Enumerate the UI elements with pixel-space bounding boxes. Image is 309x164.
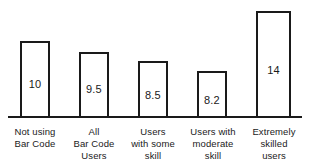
bar-not-using-bar-code[interactable]: 10 <box>20 41 50 118</box>
bar-value-label: 14 <box>258 64 289 76</box>
category-label-not-using-bar-code: Not using Bar Code <box>5 126 65 150</box>
category-label-line: skill <box>182 150 244 162</box>
category-label-line: Not using <box>5 126 65 138</box>
category-label-line: Users with <box>182 126 244 138</box>
category-label-line: Extremely <box>243 126 305 138</box>
category-label-line: with some <box>123 138 183 150</box>
category-label-line: Users <box>123 126 183 138</box>
bar-all-bar-code-users[interactable]: 9.5 <box>79 52 109 118</box>
category-label-extremely-skilled-users: Extremely skilled users <box>243 126 305 162</box>
category-label-line: All <box>64 126 124 138</box>
bar-users-with-moderate-skill[interactable]: 8.2 <box>197 71 227 118</box>
category-label-users-with-some-skill: Users with some skill <box>123 126 183 162</box>
category-label-line: Bar Code <box>5 138 65 150</box>
category-label-line: skill <box>123 150 183 162</box>
bar-value-label: 8.5 <box>140 89 166 101</box>
category-labels: Not using Bar Code All Bar Code Users Us… <box>0 122 309 164</box>
plot-area: 10 9.5 8.5 8.2 14 <box>0 0 309 118</box>
bar-value-label: 10 <box>22 78 48 90</box>
bar-extremely-skilled-users[interactable]: 14 <box>256 11 291 118</box>
bar-chart: 10 9.5 8.5 8.2 14 Not using Bar Code All… <box>0 0 309 164</box>
category-label-line: skilled <box>243 138 305 150</box>
category-label-users-with-moderate-skill: Users with moderate skill <box>182 126 244 162</box>
bar-users-with-some-skill[interactable]: 8.5 <box>138 61 168 118</box>
bar-value-label: 8.2 <box>199 94 225 106</box>
category-label-line: Bar Code <box>64 138 124 150</box>
x-axis-baseline <box>8 116 302 118</box>
bar-value-label: 9.5 <box>81 83 107 95</box>
category-label-line: users <box>243 150 305 162</box>
category-label-line: moderate <box>182 138 244 150</box>
category-label-all-bar-code-users: All Bar Code Users <box>64 126 124 162</box>
category-label-line: Users <box>64 150 124 162</box>
